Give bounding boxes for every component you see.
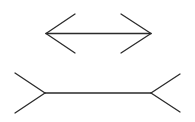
left-fin-line — [15, 93, 45, 113]
illusion-canvas: Müller-Lyer illusion — [0, 0, 195, 122]
top-arrow-figure — [46, 14, 151, 53]
muller-lyer-figure — [0, 0, 195, 122]
left-fin-line — [46, 14, 75, 34]
bottom-fins-figure — [15, 73, 180, 113]
right-fin-line — [151, 74, 180, 93]
right-fin-line — [121, 14, 151, 34]
right-fin-line — [121, 34, 151, 54]
left-fin-line — [46, 34, 75, 54]
left-fin-line — [15, 73, 45, 93]
right-fin-line — [151, 93, 180, 112]
